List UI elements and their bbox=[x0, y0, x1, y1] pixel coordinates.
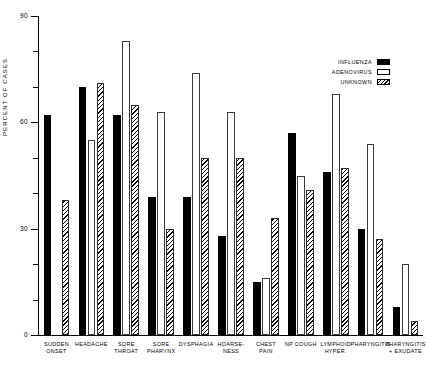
bar bbox=[166, 229, 174, 335]
y-tick-major bbox=[31, 122, 39, 123]
bar bbox=[88, 140, 96, 335]
bar bbox=[192, 73, 200, 335]
legend-swatch-icon bbox=[377, 69, 390, 75]
bar bbox=[358, 229, 366, 335]
y-tick-major bbox=[31, 335, 39, 336]
bar-group bbox=[113, 16, 139, 335]
bar-group bbox=[44, 16, 70, 335]
legend-entry: ADENOVIRUS bbox=[300, 67, 390, 76]
bar bbox=[79, 87, 87, 335]
y-tick-major bbox=[31, 16, 39, 17]
y-tick-label: 90 bbox=[0, 12, 28, 19]
bar bbox=[183, 197, 191, 335]
legend-label: UNKNOWN bbox=[340, 79, 372, 85]
bar bbox=[97, 83, 105, 335]
bar bbox=[393, 307, 401, 335]
bar bbox=[44, 115, 52, 335]
bar bbox=[332, 94, 340, 335]
bar-group bbox=[393, 16, 419, 335]
bar bbox=[253, 282, 261, 335]
bar bbox=[367, 144, 375, 335]
x-axis-line bbox=[38, 335, 423, 336]
bar bbox=[201, 158, 209, 335]
y-tick-label: 0 bbox=[0, 331, 28, 338]
y-tick-label: 60 bbox=[0, 118, 28, 125]
legend-entry: UNKNOWN bbox=[300, 77, 390, 86]
legend-entry: INFLUENZA bbox=[300, 57, 390, 66]
bar-group bbox=[183, 16, 209, 335]
bar bbox=[148, 197, 156, 335]
bar bbox=[341, 168, 349, 335]
bar bbox=[271, 218, 279, 335]
bar bbox=[323, 172, 331, 335]
bar bbox=[236, 158, 244, 335]
bar bbox=[288, 133, 296, 335]
bar bbox=[297, 176, 305, 336]
bar bbox=[306, 190, 314, 335]
bar bbox=[62, 200, 70, 335]
bar bbox=[157, 112, 165, 335]
chart-legend: INFLUENZAADENOVIRUSUNKNOWN bbox=[300, 57, 390, 87]
bar-chart: PERCENT OF CASES 0306090 SUDDEN ONSETHEA… bbox=[0, 0, 427, 369]
bar-group bbox=[218, 16, 244, 335]
legend-swatch-icon bbox=[377, 79, 390, 85]
legend-label: ADENOVIRUS bbox=[332, 69, 372, 75]
y-axis-title: PERCENT OF CASES bbox=[2, 6, 8, 136]
y-tick-major bbox=[31, 229, 39, 230]
bar bbox=[122, 41, 130, 335]
legend-swatch-icon bbox=[377, 59, 390, 65]
bar bbox=[411, 321, 419, 335]
bar bbox=[262, 278, 270, 335]
bar bbox=[376, 239, 384, 335]
bar bbox=[218, 236, 226, 335]
y-tick-label: 30 bbox=[0, 225, 28, 232]
x-axis-label: PHARYNGITIS + EXUDATE bbox=[384, 341, 427, 356]
bar-group bbox=[253, 16, 279, 335]
bar bbox=[113, 115, 121, 335]
bar-group bbox=[148, 16, 174, 335]
bar-group bbox=[79, 16, 105, 335]
bar bbox=[131, 105, 139, 335]
bar bbox=[402, 264, 410, 335]
legend-label: INFLUENZA bbox=[338, 59, 372, 65]
bar bbox=[227, 112, 235, 335]
